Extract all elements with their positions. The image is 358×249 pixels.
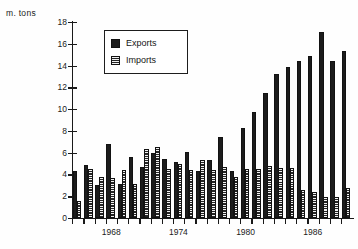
bar-group [262,22,273,218]
x-tick-mark [106,219,107,224]
x-tick-mark [296,219,297,224]
bar-imports [267,166,271,218]
bar-group [229,22,240,218]
bar-exports [319,32,323,218]
legend-label-exports: Exports [126,38,157,48]
x-tick-mark [207,219,208,224]
x-tick-mark [117,219,118,224]
bar-group [83,22,94,218]
y-tick-label: 6 [62,148,67,158]
x-tick-mark [151,219,152,224]
x-tick-label: 1974 [169,227,188,237]
bar-imports [166,169,170,218]
x-tick-mark [173,219,174,224]
x-tick-label: 1980 [236,227,255,237]
bar-imports [200,160,204,218]
x-tick-mark [83,219,84,224]
bar-imports [189,170,193,218]
x-tick-mark [307,219,308,224]
bar-imports [256,169,260,218]
bar-group [330,22,341,218]
bar-imports [133,184,137,218]
x-tick-mark [128,219,129,224]
bar-imports [301,190,305,218]
bar-imports [77,201,81,218]
y-tick-label: 10 [58,104,67,114]
bar-imports [346,188,350,218]
x-tick-mark [285,219,286,224]
x-tick-mark [72,219,73,224]
bar-imports [155,147,159,218]
x-tick-mark [184,219,185,224]
bar-group [72,22,83,218]
bar-group [307,22,318,218]
legend-item-imports: Imports [111,53,181,67]
bar-group [251,22,262,218]
bar-group [274,22,285,218]
x-tick-mark [341,219,342,224]
bar-exports [330,61,334,218]
bar-imports [144,149,148,218]
bar-imports [211,170,215,218]
x-axis-ticks: 1968197419801986 [72,219,355,247]
legend-swatch-imports [111,56,120,65]
y-tick-label: 4 [62,169,67,179]
y-tick-label: 12 [58,82,67,92]
x-tick-mark [330,219,331,224]
legend-label-imports: Imports [126,55,156,65]
y-tick-label: 8 [62,126,67,136]
bar-imports [122,170,126,218]
x-tick-mark [162,219,163,224]
x-tick-mark [139,219,140,224]
y-tick-label: 0 [62,213,67,223]
bar-imports [312,192,316,218]
bar-group [240,22,251,218]
y-tick-label: 16 [58,39,67,49]
y-tick-label: 14 [58,61,67,71]
chart-legend: Exports Imports [104,30,188,74]
x-tick-mark [195,219,196,224]
bar-imports [99,177,103,218]
x-tick-mark [274,219,275,224]
legend-swatch-exports [111,39,120,48]
x-tick-mark [218,219,219,224]
x-tick-mark [229,219,230,224]
bar-imports [290,168,294,218]
bar-imports [234,177,238,218]
legend-item-exports: Exports [111,36,181,50]
bar-imports [334,197,338,218]
x-tick-label: 1968 [102,227,121,237]
bar-group [341,22,352,218]
bar-imports [222,167,226,218]
x-tick-mark [251,219,252,224]
bar-group [318,22,329,218]
chart-figure: m. tons 024681012141618 1968197419801986… [0,0,358,249]
bar-group [218,22,229,218]
x-tick-mark [95,219,96,224]
y-tick-label: 2 [62,191,67,201]
bar-imports [178,164,182,218]
y-tick-label: 18 [58,17,67,27]
bar-group [195,22,206,218]
bar-group [296,22,307,218]
bar-group [285,22,296,218]
y-axis-unit-label: m. tons [6,8,36,18]
x-tick-mark [263,219,264,224]
bar-imports [323,197,327,218]
x-tick-mark [319,219,320,224]
bar-group [206,22,217,218]
bar-imports [110,178,114,218]
bar-imports [88,169,92,218]
bar-imports [278,168,282,218]
bar-imports [245,169,249,218]
x-tick-label: 1986 [303,227,322,237]
x-tick-mark [240,219,241,224]
